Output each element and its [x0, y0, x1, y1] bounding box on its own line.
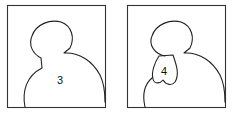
panel-4: 4	[128, 6, 226, 108]
figure: 3 4	[0, 0, 240, 118]
region-label: 4	[161, 65, 167, 77]
panel-3: 3	[8, 6, 106, 108]
region-label: 3	[57, 74, 63, 86]
